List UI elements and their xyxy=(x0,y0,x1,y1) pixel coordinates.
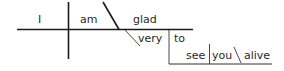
word-verb: am xyxy=(80,14,97,25)
word-infinitive-marker: to xyxy=(174,33,185,44)
word-infinitive-verb: see xyxy=(186,50,205,61)
predicate-adjective-slant xyxy=(103,2,119,30)
word-predicate-adjective: glad xyxy=(133,14,157,25)
object-complement-slant xyxy=(234,47,241,63)
word-object-complement: alive xyxy=(244,50,270,61)
word-subject: I xyxy=(38,14,41,25)
sentence-diagram: I am glad very to see you alive xyxy=(0,0,284,71)
word-infinitive-object: you xyxy=(212,50,232,61)
word-adverb-modifier: very xyxy=(138,33,162,44)
